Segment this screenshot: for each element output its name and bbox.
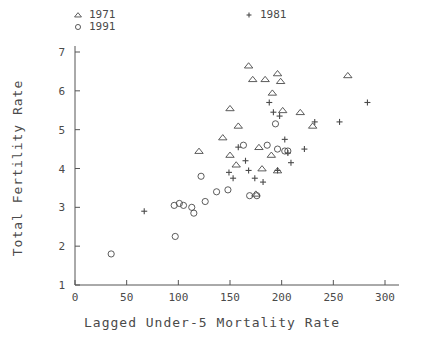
x-tick-label: 100: [168, 291, 188, 304]
y-tick-label: 7: [58, 46, 65, 59]
y-tick-label: 6: [58, 85, 65, 98]
x-tick-label: 250: [323, 291, 343, 304]
chart-root: 0501001502002503001234567 197119911981 L…: [0, 0, 424, 343]
x-tick-label: 300: [375, 291, 395, 304]
x-tick-label: 150: [220, 291, 240, 304]
x-tick-label: 0: [72, 291, 79, 304]
x-axis-title: Lagged Under-5 Mortality Rate: [84, 315, 340, 330]
legend-label-1981: 1981: [260, 8, 287, 21]
y-tick-label: 2: [58, 240, 65, 253]
scatter-plot: 0501001502002503001234567 197119911981 L…: [0, 0, 424, 343]
x-tick-label: 50: [120, 291, 133, 304]
y-tick-label: 3: [58, 201, 65, 214]
y-tick-label: 1: [58, 279, 65, 292]
y-tick-label: 4: [58, 163, 65, 176]
y-axis-title: Total Fertility Rate: [10, 80, 25, 257]
y-tick-label: 5: [58, 124, 65, 137]
x-tick-label: 200: [272, 291, 292, 304]
legend-label-1991: 1991: [89, 20, 116, 33]
